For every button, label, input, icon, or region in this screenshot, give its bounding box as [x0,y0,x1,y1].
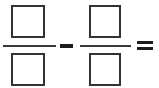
fraction-2-numerator-box[interactable] [89,5,121,38]
fraction-subtraction-worksheet [0,0,159,88]
equals-bar-bottom [137,47,153,50]
equals-operator-icon [137,41,153,50]
fraction-1-bar [3,45,56,47]
fraction-1-numerator-box[interactable] [11,5,45,38]
minus-operator-icon [60,44,73,48]
equals-bar-top [137,41,153,44]
fraction-1-denominator-box[interactable] [11,53,45,86]
fraction-2-denominator-box[interactable] [89,53,121,86]
fraction-2-bar [80,45,131,47]
